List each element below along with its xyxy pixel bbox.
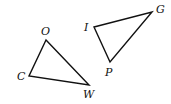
vertex-label-p: P (104, 66, 113, 79)
vertex-label-i: I (83, 21, 89, 34)
vertex-label-o: O (41, 25, 50, 38)
triangle-cow: O C W (17, 25, 96, 101)
vertex-label-w: W (83, 88, 96, 101)
triangle-igp-edges (94, 12, 152, 62)
triangle-cow-edges (29, 40, 89, 85)
vertex-label-g: G (156, 3, 165, 16)
triangle-igp: I G P (83, 3, 165, 79)
vertex-label-c: C (17, 70, 26, 83)
diagram-canvas: O C W I G P (0, 0, 171, 104)
